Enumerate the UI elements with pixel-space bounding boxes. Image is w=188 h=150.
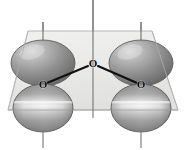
orbital-diagram-figure: O O O [0, 0, 188, 150]
orbital-lobe-right-lower [111, 84, 171, 132]
diagram-canvas: O O O [0, 0, 188, 150]
atom-label-left: O [39, 78, 48, 90]
orbital-lobe-left-lower [13, 84, 73, 132]
atom-label-right: O [137, 78, 146, 90]
lobe-rim-shade-left-lower [13, 84, 73, 132]
lobe-rim-shade-right-lower [111, 84, 171, 132]
atom-label-center: O [89, 57, 98, 69]
lobe-band-left-lower [13, 101, 73, 103]
lobe-band-right-lower [111, 101, 171, 103]
